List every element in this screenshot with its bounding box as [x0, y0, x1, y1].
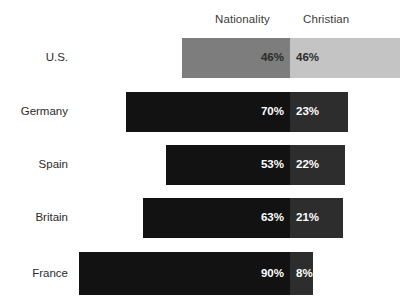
- row-label-spain: Spain: [39, 159, 68, 171]
- chart-row: U.S.46%46%: [0, 38, 415, 78]
- bar-segment-nationality: 90%: [79, 252, 290, 295]
- stacked-bar: 46%46%: [182, 38, 400, 78]
- bar-value-christian: 23%: [296, 106, 319, 118]
- stacked-bar: 90%8%: [79, 252, 313, 295]
- bar-segment-nationality: 70%: [126, 92, 290, 132]
- column-header-nationality: Nationality: [215, 13, 270, 25]
- bar-value-christian: 21%: [296, 212, 319, 224]
- bar-value-nationality: 90%: [261, 268, 284, 280]
- stacked-bar-chart: Nationality Christian U.S.46%46%Germany7…: [0, 0, 415, 308]
- bar-segment-nationality: 53%: [166, 145, 290, 185]
- chart-row: France90%8%: [0, 252, 415, 295]
- chart-row: Spain53%22%: [0, 145, 415, 185]
- bar-segment-nationality: 46%: [182, 38, 290, 78]
- chart-row: Britain63%21%: [0, 198, 415, 238]
- bar-segment-christian: 46%: [290, 38, 400, 78]
- stacked-bar: 70%23%: [126, 92, 348, 132]
- bar-value-christian: 22%: [296, 159, 319, 171]
- bar-segment-christian: 8%: [290, 252, 313, 295]
- row-label-france: France: [32, 268, 68, 280]
- bar-value-nationality: 53%: [261, 159, 284, 171]
- stacked-bar: 63%21%: [143, 198, 343, 238]
- bar-value-nationality: 70%: [261, 106, 284, 118]
- stacked-bar: 53%22%: [166, 145, 345, 185]
- bar-segment-christian: 23%: [290, 92, 348, 132]
- row-label-britain: Britain: [35, 212, 68, 224]
- bar-value-christian: 8%: [296, 268, 313, 280]
- bar-segment-christian: 22%: [290, 145, 345, 185]
- bar-segment-nationality: 63%: [143, 198, 290, 238]
- bar-value-nationality: 46%: [261, 52, 284, 64]
- row-label-germany: Germany: [21, 106, 68, 118]
- bar-value-nationality: 63%: [261, 212, 284, 224]
- bar-value-christian: 46%: [296, 52, 319, 64]
- chart-row: Germany70%23%: [0, 92, 415, 132]
- row-label-u-s: U.S.: [46, 52, 68, 64]
- bar-segment-christian: 21%: [290, 198, 343, 238]
- column-header-christian: Christian: [303, 13, 349, 25]
